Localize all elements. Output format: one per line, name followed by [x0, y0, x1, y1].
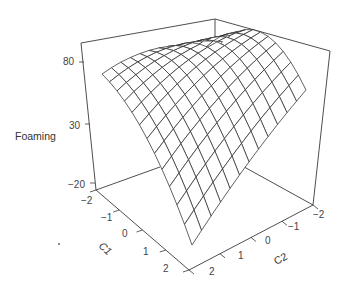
- c2-tick-mark-0: [189, 270, 194, 274]
- c2-tick-minus2: −2: [313, 210, 324, 220]
- c1-tick-mark-2: [137, 230, 143, 232]
- c2-tick-mark-3: [282, 221, 287, 225]
- z-tick-minus20: −20: [68, 180, 85, 190]
- c1-tick-1: 1: [143, 247, 149, 257]
- c1-tick-minus2: −2: [81, 196, 92, 206]
- c2-tick-1: 1: [238, 251, 244, 261]
- c2-tick-mark-1: [220, 254, 225, 258]
- c2-tick-minus1: −1: [288, 222, 299, 232]
- surface-plot: [0, 0, 347, 290]
- c1-tick-mark-1: [113, 210, 119, 212]
- c2-tick-0: 0: [265, 236, 271, 246]
- c1-tick-mark-3: [160, 250, 166, 252]
- surface-mesh: [102, 30, 306, 245]
- c1-tick-mark-0: [90, 190, 96, 192]
- stray-dot: [58, 243, 60, 245]
- c1-tick-0: 0: [122, 229, 128, 239]
- z-axis-title: Foaming: [15, 131, 56, 142]
- c1-tick-minus1: −1: [101, 213, 112, 223]
- c1-tick-mark-4: [183, 270, 189, 272]
- c1-tick-2: 2: [163, 264, 169, 274]
- z-tick-80: 80: [63, 57, 74, 67]
- c2-tick-2: 2: [209, 267, 215, 277]
- z-tick-30: 30: [69, 121, 80, 131]
- c2-tick-mark-2: [251, 238, 256, 242]
